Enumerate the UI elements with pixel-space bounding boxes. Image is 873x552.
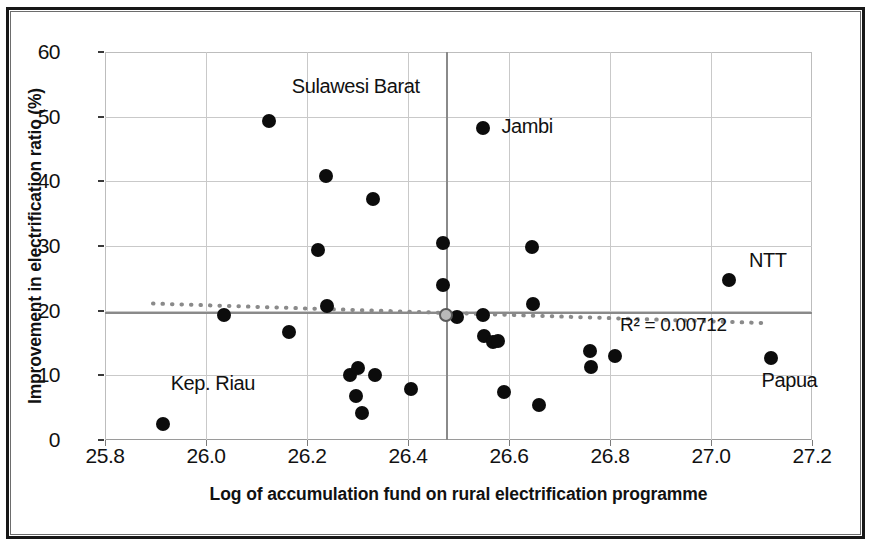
data-point	[404, 382, 418, 396]
plot-area: Sulawesi BaratJambiNTTKep. RiauPapuaR² =…	[105, 52, 812, 440]
data-point	[525, 240, 539, 254]
data-point	[351, 361, 365, 375]
x-axis-tick-mark	[812, 440, 813, 446]
data-point	[262, 114, 276, 128]
point-label: Sulawesi Barat	[292, 75, 420, 98]
x-axis-tick-label: 26.0	[171, 444, 241, 468]
gridline-vertical	[307, 52, 308, 440]
plot-edge-top	[105, 52, 812, 53]
y-axis-tick-label: 50	[0, 105, 60, 129]
y-axis-tick-mark	[98, 245, 104, 247]
y-axis-tick-label: 20	[0, 299, 60, 323]
y-axis-tick-label: 60	[0, 40, 60, 64]
y-axis-tick-label: 30	[0, 234, 60, 258]
gridline-horizontal	[105, 181, 812, 182]
data-point	[497, 385, 511, 399]
gridline-horizontal	[105, 246, 812, 247]
data-point	[349, 389, 363, 403]
data-point	[368, 368, 382, 382]
y-axis-tick-label: 0	[0, 428, 60, 452]
gridline-vertical	[610, 52, 611, 440]
data-point	[526, 297, 540, 311]
data-point	[532, 398, 546, 412]
chart-figure: Improvement in electrification ratio (%)…	[0, 0, 873, 552]
x-axis-tick-label: 27.2	[777, 444, 847, 468]
y-axis-tick-mark	[98, 116, 104, 118]
y-axis-tick-label: 10	[0, 363, 60, 387]
data-point	[156, 417, 170, 431]
x-axis-tick-label: 26.6	[474, 444, 544, 468]
x-axis-tick-mark	[509, 440, 510, 446]
y-axis-tick-mark	[98, 374, 104, 376]
data-point	[436, 278, 450, 292]
data-point	[366, 192, 380, 206]
data-point	[355, 406, 369, 420]
x-axis-title: Log of accumulation fund on rural electr…	[105, 484, 812, 505]
point-label: Papua	[762, 369, 818, 392]
x-axis-tick-mark	[610, 440, 611, 446]
y-axis-tick-label: 40	[0, 169, 60, 193]
data-point	[722, 273, 736, 287]
data-point	[436, 236, 450, 250]
data-point	[764, 351, 778, 365]
data-point	[583, 344, 597, 358]
x-axis-tick-mark	[408, 440, 409, 446]
x-axis-tick-mark	[105, 440, 106, 446]
y-axis-tick-mark	[98, 51, 104, 53]
r-squared-label: R² = 0.00712	[620, 314, 727, 336]
gridline-vertical	[509, 52, 510, 440]
x-axis-tick-label: 26.2	[272, 444, 342, 468]
y-axis-tick-mark	[98, 439, 104, 441]
y-axis-tick-mark	[98, 310, 104, 312]
mean-marker	[439, 308, 453, 322]
x-axis-tick-label: 25.8	[70, 444, 140, 468]
x-axis-tick-label: 26.8	[575, 444, 645, 468]
data-point	[311, 243, 325, 257]
x-axis-tick-mark	[307, 440, 308, 446]
gridline-horizontal	[105, 117, 812, 118]
x-axis-tick-mark	[711, 440, 712, 446]
x-axis-tick-mark	[206, 440, 207, 446]
x-axis-tick-label: 27.0	[676, 444, 746, 468]
data-point	[319, 169, 333, 183]
data-point	[217, 308, 231, 322]
point-label: NTT	[749, 249, 787, 272]
point-label: Kep. Riau	[171, 372, 255, 395]
data-point	[476, 308, 490, 322]
data-point	[476, 121, 490, 135]
data-point	[320, 299, 334, 313]
point-label: Jambi	[501, 115, 552, 138]
y-axis-tick-mark	[98, 180, 104, 182]
plot-edge-bottom	[105, 439, 812, 440]
x-axis-tick-label: 26.4	[373, 444, 443, 468]
data-point	[584, 360, 598, 374]
gridline-vertical	[711, 52, 712, 440]
data-point	[608, 349, 622, 363]
data-point	[491, 334, 505, 348]
data-point	[282, 325, 296, 339]
